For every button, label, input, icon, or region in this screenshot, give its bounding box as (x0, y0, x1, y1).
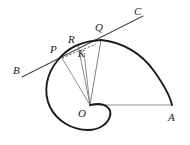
label-P: P (50, 44, 57, 55)
circular-arc-QA (101, 40, 172, 105)
label-O: O (78, 108, 86, 119)
radius-line-OQ (90, 40, 101, 105)
label-K: K (78, 49, 85, 59)
label-A: A (168, 112, 175, 123)
label-Q: Q (95, 22, 103, 33)
radius-line-OP (62, 58, 90, 105)
geometry-figure: B P R K Q C O A (0, 0, 190, 145)
label-B: B (13, 65, 20, 76)
label-C: C (134, 6, 141, 17)
label-R: R (68, 34, 75, 45)
